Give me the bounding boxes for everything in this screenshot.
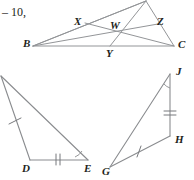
caption-fragment: – 10, bbox=[2, 6, 26, 18]
angle-arc-e bbox=[75, 151, 82, 157]
segment-fe bbox=[1, 76, 88, 160]
point-label-x: X bbox=[74, 16, 81, 27]
vertex-label-c: C bbox=[178, 39, 185, 50]
vertex-label-g: G bbox=[102, 166, 110, 177]
segment-ba-dup bbox=[33, 1, 146, 46]
vertex-label-j: J bbox=[176, 66, 182, 77]
geometry-canvas bbox=[0, 0, 194, 180]
triangle-abc-group bbox=[33, 1, 174, 46]
triangle-ghj-group bbox=[110, 74, 176, 167]
vertex-label-e: E bbox=[84, 163, 91, 174]
angle-arc-j bbox=[164, 84, 170, 88]
triangle-def-group bbox=[1, 76, 88, 165]
tick-single-fd bbox=[9, 118, 21, 124]
point-label-y: Y bbox=[106, 48, 113, 59]
segment-fd bbox=[1, 76, 30, 160]
cevian-b-to-z bbox=[33, 24, 158, 46]
point-label-z: Z bbox=[157, 16, 164, 27]
vertex-label-b: B bbox=[23, 38, 30, 49]
vertex-label-h: H bbox=[175, 134, 184, 145]
segment-gh bbox=[110, 136, 170, 167]
point-label-w: W bbox=[110, 20, 120, 31]
geometry-figure: – 10, B C X Z Y W D E J H G bbox=[0, 0, 194, 180]
segment-jg bbox=[110, 74, 170, 167]
vertex-label-d: D bbox=[22, 163, 30, 174]
